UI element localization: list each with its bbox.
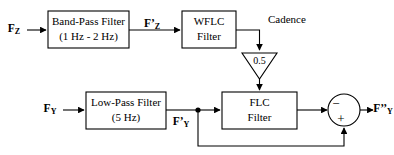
- signal-fdoubleprime-y-base: F: [373, 102, 380, 114]
- signal-label-fz: FZ: [8, 22, 20, 36]
- band-pass-filter-label-line1: Band-Pass Filter: [52, 15, 125, 27]
- signal-fprime-z-base: F: [144, 17, 151, 29]
- wflc-filter-label-line1: WFLC: [194, 15, 225, 27]
- signal-label-fy: FY: [44, 102, 57, 116]
- block-diagram-canvas: Band-Pass Filter (1 Hz - 2 Hz) WFLC Filt…: [0, 0, 394, 155]
- wflc-filter-label-line2: Filter: [197, 30, 221, 42]
- signal-fdoubleprime-y-prime: ’’: [380, 102, 387, 114]
- block-diagram-svg: Band-Pass Filter (1 Hz - 2 Hz) WFLC Filt…: [0, 0, 394, 155]
- flc-filter-label-line1: FLC: [249, 96, 269, 108]
- signal-fprime-z-sub: Z: [155, 22, 160, 31]
- signal-fy-base: F: [44, 102, 51, 114]
- summing-junction-plus-sign: +: [337, 111, 344, 126]
- signal-fy-sub: Y: [51, 107, 57, 116]
- low-pass-filter-label-line1: Low-Pass Filter: [91, 96, 161, 108]
- signal-label-fdoubleprime-y: F’’Y: [373, 102, 393, 116]
- low-pass-filter-label-line2: (5 Hz): [112, 111, 141, 124]
- signal-fdoubleprime-y-sub: Y: [387, 107, 393, 116]
- summing-junction-minus-sign: −: [332, 96, 339, 111]
- signal-fprime-y-sub: Y: [184, 120, 190, 129]
- signal-label-fprime-y: F’Y: [173, 115, 190, 129]
- gain-value-label: 0.5: [253, 55, 266, 66]
- signal-fz-base: F: [8, 22, 15, 34]
- flc-filter-label-line2: Filter: [248, 111, 272, 123]
- signal-label-cadence: Cadence: [268, 13, 306, 25]
- band-pass-filter-label-line2: (1 Hz - 2 Hz): [59, 30, 118, 43]
- signal-fprime-y-base: F: [173, 115, 180, 127]
- wire-cadence-to-gain: [236, 30, 260, 50]
- signal-label-fprime-z: F’Z: [144, 17, 160, 31]
- signal-fz-sub: Z: [15, 27, 20, 36]
